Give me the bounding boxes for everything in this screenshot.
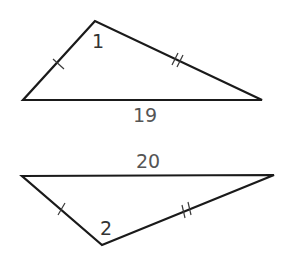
triangle-1 — [23, 21, 262, 100]
triangle-2 — [22, 175, 274, 245]
base-length-label-2: 20 — [136, 152, 160, 171]
base-length-label-1: 19 — [133, 106, 157, 125]
angle-label-2: 2 — [100, 219, 112, 238]
diagram-canvas — [0, 0, 281, 261]
angle-label-1: 1 — [92, 32, 104, 51]
